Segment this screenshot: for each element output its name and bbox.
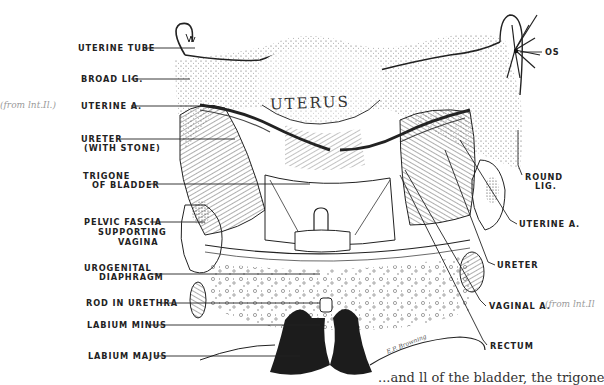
label-os: OS bbox=[545, 47, 560, 57]
label-uterine-tube: UTERINE TUBE bbox=[78, 43, 155, 53]
label-labium-minus: LABIUM MINUS bbox=[87, 320, 167, 330]
label-ureter-right: URETER bbox=[497, 260, 538, 270]
handwritten-note-left: (from lnt.Il.) bbox=[0, 100, 56, 110]
label-broad-lig: BROAD LIG. bbox=[81, 74, 143, 84]
label-labium-majus: LABIUM MAJUS bbox=[88, 351, 167, 361]
handwritten-note-right: (from lnt.Il bbox=[545, 299, 595, 309]
label-rectum: RECTUM bbox=[490, 341, 534, 351]
label-rod-in-urethra: ROD IN URETHRA bbox=[86, 298, 178, 308]
label-urogenital-diaphragm-line2: DIAPHRAGM bbox=[99, 272, 164, 282]
label-trigone-line2: OF BLADDER bbox=[92, 180, 160, 190]
uterus-label: UTERUS bbox=[270, 93, 350, 114]
label-uterine-a-right: UTERINE A. bbox=[519, 219, 580, 229]
caption-fragment: ...and ll of the bladder, the trigone bbox=[378, 370, 604, 385]
label-pelvic-fascia: PELVIC FASCIA bbox=[84, 217, 162, 227]
label-round-lig-line2: LIG. bbox=[535, 181, 557, 191]
label-pelvic-fascia-line3: VAGINA bbox=[118, 237, 158, 247]
label-uterine-a-left: UTERINE A. bbox=[81, 101, 142, 111]
label-vaginal-a: VAGINAL A. bbox=[489, 301, 551, 311]
label-ureter-with-stone-line2: (WITH STONE) bbox=[84, 143, 161, 153]
label-pelvic-fascia-line2: SUPPORTING bbox=[98, 227, 167, 237]
